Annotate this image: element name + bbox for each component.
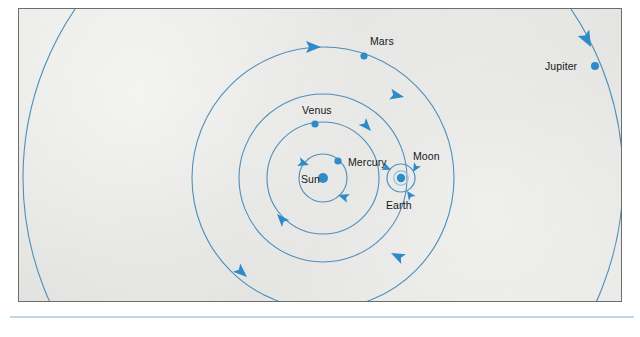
direction-arrow-mars-top xyxy=(306,41,321,53)
body-dot-mars xyxy=(360,52,367,59)
label-mars: Mars xyxy=(370,36,394,47)
direction-arrow-mars-lower-left xyxy=(233,264,251,282)
label-jupiter: Jupiter xyxy=(545,61,577,72)
label-mercury: Mercury xyxy=(348,157,387,168)
body-dot-mercury xyxy=(334,157,341,164)
diagram-page: Sun Mercury Venus Earth Moon Mars Jupite… xyxy=(0,0,640,337)
label-venus: Venus xyxy=(302,105,332,116)
direction-arrow-venus-bottom xyxy=(273,211,289,227)
body-dot-jupiter xyxy=(591,62,599,70)
orbit-path-jupiter xyxy=(23,9,622,302)
label-moon: Moon xyxy=(413,151,440,162)
direction-arrow-venus-top xyxy=(359,118,375,134)
orbit-diagram-svg xyxy=(19,9,622,302)
direction-arrow-earth-top xyxy=(389,89,405,103)
direction-arrow-earth-bottom xyxy=(389,248,406,264)
page-rule xyxy=(10,316,634,318)
body-dot-earth xyxy=(397,174,405,182)
body-dot-venus xyxy=(311,120,318,127)
label-earth: Earth xyxy=(386,200,412,211)
label-sun: Sun xyxy=(301,174,320,185)
diagram-frame: Sun Mercury Venus Earth Moon Mars Jupite… xyxy=(18,8,622,302)
direction-arrow-jupiter xyxy=(578,30,597,50)
